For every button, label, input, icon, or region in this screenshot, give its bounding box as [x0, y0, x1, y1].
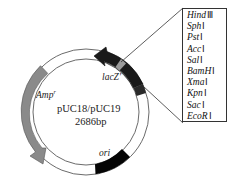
- mcs-site: BamHⅠ: [187, 66, 226, 77]
- plasmid-name-text: pUC18/pUC19: [57, 103, 121, 114]
- mcs-site: HindⅢ: [187, 10, 226, 21]
- amp-label: Ampr: [36, 89, 56, 100]
- ori-label-text: ori: [99, 148, 110, 158]
- mcs-site: SphⅠ: [187, 21, 226, 32]
- mcs-site: SacⅠ: [187, 100, 226, 111]
- mcs-leader-top: [121, 8, 183, 62]
- plasmid-name: pUC18/pUC19: [57, 103, 121, 114]
- mcs-site: EcoRⅠ: [187, 111, 226, 122]
- ori-label: ori: [99, 148, 110, 158]
- amp-label-text: Amp: [36, 90, 53, 100]
- mcs-site: PstⅠ: [187, 32, 226, 43]
- plasmid-size-text: 2686bp: [75, 116, 107, 127]
- mcs-site: KpnⅠ: [187, 88, 226, 99]
- mcs-site: AccⅠ: [187, 44, 226, 55]
- plasmid-size: 2686bp: [75, 116, 107, 127]
- amp-superscript: r: [53, 89, 55, 95]
- mcs-site: XmaⅠ: [187, 77, 226, 88]
- mcs-site: SalⅠ: [187, 55, 226, 66]
- mcs-site-list: HindⅢ SphⅠ PstⅠ AccⅠ SalⅠ BamHⅠ XmaⅠ Kpn…: [182, 8, 227, 122]
- lacz-label: lacZ': [102, 72, 121, 82]
- lacz-label-text: lacZ': [102, 72, 121, 82]
